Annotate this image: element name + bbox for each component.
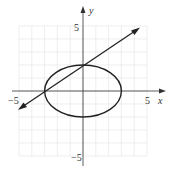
- y-max-label: 5: [74, 22, 79, 33]
- x-axis-label: x: [157, 95, 163, 106]
- graph: −5 5 x y 5 −5: [0, 0, 175, 174]
- x-min-label: −5: [8, 95, 19, 106]
- x-axis-arrow-icon: [159, 89, 166, 94]
- y-axis-arrow-icon: [81, 6, 86, 13]
- plot-svg: −5 5 x y 5 −5: [0, 0, 175, 174]
- line-arrow-end-icon: [131, 28, 140, 36]
- y-min-label: −5: [71, 152, 82, 163]
- x-max-label: 5: [145, 95, 150, 106]
- y-axis-label: y: [88, 5, 94, 16]
- line-arrow-start-icon: [18, 103, 27, 111]
- line-curve: [22, 31, 135, 107]
